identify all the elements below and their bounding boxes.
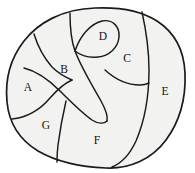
region-label-d: D bbox=[99, 30, 107, 42]
region-label-a: A bbox=[24, 81, 33, 93]
diagram-canvas: A B C D E F G bbox=[0, 0, 195, 173]
region-label-f: F bbox=[94, 134, 100, 146]
region-diagram-figure: A B C D E F G bbox=[0, 0, 195, 173]
region-label-b: B bbox=[60, 63, 68, 75]
region-label-g: G bbox=[42, 119, 50, 131]
region-label-e: E bbox=[161, 85, 168, 97]
region-label-c: C bbox=[123, 52, 131, 64]
